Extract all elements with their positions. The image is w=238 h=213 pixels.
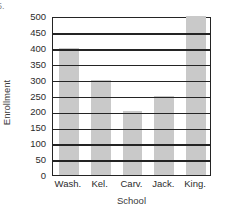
gridline	[53, 65, 210, 67]
x-axis-tick: Jack.	[152, 178, 174, 190]
y-axis-tick: 350	[30, 60, 46, 70]
y-axis-tick: 150	[30, 124, 46, 134]
y-axis-tick: 450	[30, 28, 46, 38]
gridline	[53, 144, 210, 146]
gridline	[53, 97, 210, 99]
y-axis-tick: 250	[30, 92, 46, 102]
x-axis-tick: Kel.	[92, 178, 108, 190]
x-axis-tick: Carv.	[121, 178, 143, 190]
bar-chart-figure: 5. Enrollment 05010015020025030035040045…	[0, 0, 238, 213]
plot-area	[52, 17, 211, 176]
bar	[59, 48, 79, 175]
bar	[154, 96, 174, 176]
x-axis-tick: King.	[184, 178, 206, 190]
gridline	[53, 160, 210, 162]
y-axis-tick: 50	[35, 155, 46, 165]
gridline	[53, 33, 210, 35]
gridline	[53, 129, 210, 131]
y-axis-tick: 100	[30, 139, 46, 149]
y-axis-tick: 300	[30, 76, 46, 86]
y-axis-tick: 0	[41, 171, 46, 181]
x-axis-tick: Wash.	[55, 178, 82, 190]
y-axis-tick: 500	[30, 12, 46, 22]
x-axis-title: School	[52, 195, 211, 206]
bar	[123, 111, 143, 175]
gridline	[53, 81, 210, 83]
plot-inner	[53, 18, 210, 175]
y-axis-title-text: Enrollment	[2, 79, 13, 124]
gridline	[53, 49, 210, 51]
y-axis-tick: 400	[30, 44, 46, 54]
bar	[186, 16, 206, 175]
gridline	[53, 113, 210, 115]
x-axis-tick-labels: Wash.Kel.Carv.Jack.King.	[52, 178, 211, 191]
item-number-label: 5.	[0, 1, 5, 11]
y-axis-title: Enrollment	[0, 52, 14, 152]
y-axis-tick: 200	[30, 108, 46, 118]
y-axis-tick-labels: 050100150200250300350400450500	[14, 17, 49, 176]
